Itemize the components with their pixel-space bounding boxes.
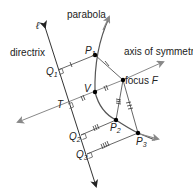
label-p2: P2 (110, 122, 121, 134)
label-t: T (57, 99, 64, 110)
label-p1: P1 (85, 45, 96, 57)
label-focus: focus F (125, 75, 159, 86)
point-vertex (93, 90, 97, 94)
parabola-diagram: parabola directrix axis of symmetry ℓ fo… (0, 0, 193, 193)
label-directrix: directrix (10, 47, 45, 58)
point-p3 (136, 131, 140, 135)
right-angle-marks (58, 69, 93, 159)
label-q3: Q3 (76, 149, 88, 161)
label-q1: Q1 (46, 66, 58, 78)
label-p3: P3 (136, 136, 147, 148)
parabola-arrow-bottom (140, 134, 158, 139)
label-parabola: parabola (67, 9, 106, 20)
label-axis: axis of symmetry (124, 46, 193, 57)
label-line: ℓ (35, 20, 40, 31)
